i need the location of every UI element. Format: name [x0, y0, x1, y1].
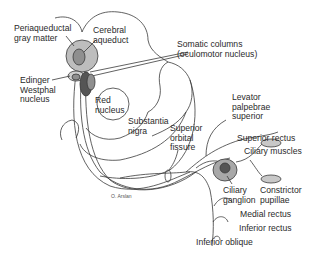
somatic-columns-nucleus-2	[87, 74, 95, 90]
label-substantia-nigra: Substantia nigra	[128, 117, 169, 136]
label-edinger-westphal: Edinger Westphal nucleus	[20, 76, 56, 105]
label-superior-rectus: Superior rectus	[237, 134, 295, 144]
author-credit: O. Arslan	[111, 193, 132, 199]
levator-branch	[206, 120, 226, 156]
somatic-pointer-1	[90, 52, 188, 72]
label-ciliary-muscles-visible: Ciliary muscles	[244, 147, 302, 157]
label-red-nucleus: Red nucleus	[95, 96, 125, 115]
label-ciliary-ganglion: Ciliary ganglion	[223, 186, 256, 205]
label-superior-orbital-fissure: Superior orbital fissure	[170, 124, 202, 153]
constrictor-pupillae-shape	[261, 175, 281, 183]
inferior-rectus-branch	[213, 217, 228, 222]
cerebral-aqueduct	[73, 49, 85, 65]
label-inferior-oblique: Inferior oblique	[196, 238, 253, 248]
edinger-westphal-core	[72, 74, 80, 80]
label-medial-rectus: Medial rectus	[240, 210, 291, 220]
left-curve	[60, 120, 78, 140]
label-cerebral-aqueduct: Cerebral aqueduct	[93, 26, 128, 45]
label-levator: Levator palpebrae superior	[232, 93, 270, 122]
midbrain-inner-curve	[148, 62, 168, 112]
somatic-pointer-2	[92, 54, 188, 76]
label-periaqueductal: Periaqueductal gray matter	[14, 24, 71, 43]
label-inferior-rectus: Inferior rectus	[239, 224, 292, 234]
ciliary-ganglion-core	[220, 163, 230, 173]
fissure-loop	[165, 170, 171, 182]
label-somatic-columns: Somatic columns (oculomotor nucleus)	[177, 40, 257, 59]
oculomotor-trunk	[120, 172, 213, 246]
label-constrictor-pupillae: Constrictor pupillae	[260, 186, 302, 205]
